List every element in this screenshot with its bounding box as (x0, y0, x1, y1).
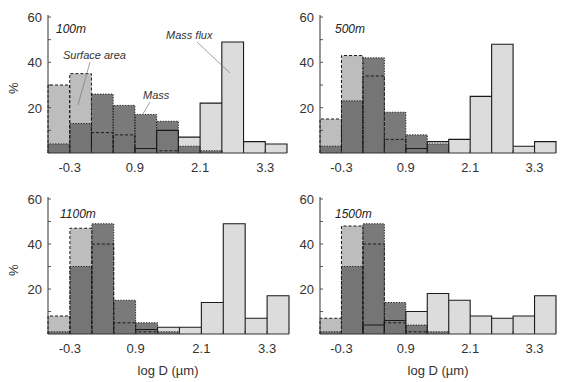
bar-mass (91, 94, 113, 153)
y-tick-label: 40 (300, 237, 314, 252)
x-tick-label: -0.3 (330, 160, 352, 175)
x-tick-label: 0.9 (127, 341, 145, 356)
bar-mass (113, 105, 135, 153)
y-tick-label: 60 (28, 10, 42, 25)
bar-mass-flux (492, 318, 513, 334)
bar-mass (70, 267, 92, 335)
bar-mass (406, 325, 427, 334)
annotation-surface-area: Surface area (63, 49, 126, 61)
y-tick-label: 40 (300, 55, 314, 70)
panel-title-1100m: 1100m (60, 207, 96, 221)
y-axis-label-top: % (6, 82, 21, 94)
bar-mass (384, 112, 405, 153)
x-axis-label-right: log D (µm) (408, 363, 469, 378)
bar-mass-flux (267, 296, 289, 334)
bar-mass-flux (200, 103, 222, 153)
bar-mass (341, 267, 362, 335)
bar-mass (70, 124, 92, 153)
bar-surface-area (48, 85, 70, 153)
x-tick-label: 3.3 (526, 160, 544, 175)
panel-title-1500m: 1500m (335, 207, 372, 221)
y-tick-label: 40 (28, 55, 42, 70)
y-axis-label-bottom: % (6, 264, 21, 276)
x-tick-label: 3.3 (526, 341, 544, 356)
panel-title-100m: 100m (56, 22, 86, 36)
bar-mass (157, 121, 179, 153)
bar-mass (406, 135, 427, 153)
y-tick-label: 60 (28, 192, 42, 207)
bar-mass-flux (245, 318, 267, 334)
bar-mass-flux (244, 142, 266, 153)
x-tick-label: 0.9 (126, 160, 144, 175)
bar-mass (136, 323, 158, 334)
bar-mass-flux (470, 316, 491, 334)
histogram-figure: 204060-0.30.92.13.3 204060-0.30.92.13.3 … (0, 0, 567, 382)
bar-mass-flux (222, 42, 244, 153)
x-tick-label: 2.1 (461, 341, 479, 356)
bar-mass (114, 300, 136, 334)
bar-mass-flux (535, 142, 556, 153)
bar-mass (320, 146, 341, 153)
bar-mass (92, 224, 114, 334)
annotation-mass: Mass (143, 89, 170, 101)
bar-mass (427, 144, 448, 153)
bar-mass (341, 101, 362, 153)
x-tick-label: 3.3 (258, 341, 276, 356)
x-tick-label: -0.3 (59, 160, 81, 175)
y-tick-label: 20 (300, 282, 314, 297)
panel-title-500m: 500m (335, 22, 365, 36)
y-tick-label: 20 (28, 101, 42, 116)
y-tick-label: 20 (28, 282, 42, 297)
bar-mass-flux (492, 44, 513, 153)
x-tick-label: -0.3 (330, 341, 352, 356)
x-tick-label: 2.1 (192, 341, 210, 356)
y-tick-label: 20 (300, 101, 314, 116)
bar-mass (178, 146, 200, 153)
y-tick-label: 60 (300, 10, 314, 25)
bar-mass-flux (265, 144, 287, 153)
bar-mass-flux (449, 139, 470, 153)
x-tick-label: 2.1 (461, 160, 479, 175)
bar-mass-flux (179, 327, 201, 334)
x-tick-label: 0.9 (397, 160, 415, 175)
y-tick-label: 60 (300, 192, 314, 207)
bar-mass (135, 114, 157, 153)
bar-mass-flux (427, 294, 448, 335)
bar-mass-flux (449, 300, 470, 334)
x-axis-label-left: log D (µm) (138, 363, 199, 378)
bar-mass-flux (201, 303, 223, 335)
x-tick-label: 2.1 (191, 160, 209, 175)
x-tick-label: 3.3 (256, 160, 274, 175)
x-tick-label: -0.3 (59, 341, 81, 356)
bar-mass-flux (535, 296, 556, 334)
bar-mass-flux (470, 96, 491, 153)
bar-mass (363, 58, 384, 153)
x-tick-label: 0.9 (397, 341, 415, 356)
bar-mass-flux (513, 316, 534, 334)
y-tick-label: 40 (28, 237, 42, 252)
bar-mass (48, 144, 70, 153)
annotation-mass-flux: Mass flux (166, 29, 213, 41)
bar-mass (384, 303, 405, 335)
bar-mass-flux (513, 146, 534, 153)
bar-mass (363, 224, 384, 334)
bar-mass-flux (223, 224, 245, 334)
